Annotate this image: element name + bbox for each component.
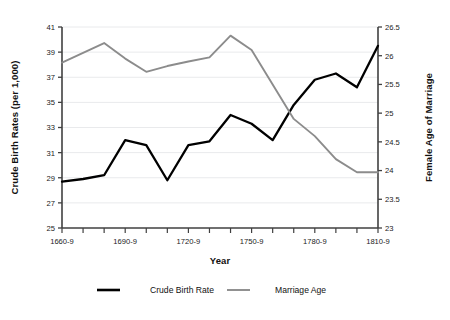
y-axis-right-tick-label: 23 (385, 224, 393, 233)
y-axis-right-tick-label: 25.5 (385, 80, 400, 89)
y-axis-right-tick-label: 24 (385, 166, 393, 175)
y-axis-right-tick-label: 23.5 (385, 195, 400, 204)
y-axis-left-tick-label: 31 (47, 149, 55, 158)
y-axis-left-tick-label: 35 (47, 98, 55, 107)
y-axis-left-tick-label: 33 (47, 123, 55, 132)
series-line-1 (62, 46, 378, 182)
y-axis-right-tick-label: 26.5 (385, 23, 400, 32)
x-axis-tick-label: 1660-9 (50, 237, 74, 246)
legend-label-2: Marriage Age (275, 285, 326, 295)
chart-figure: 2527293133353739412323.52424.52525.52626… (0, 0, 450, 320)
x-axis-tick-label: 1750-9 (240, 237, 264, 246)
y-axis-right-tick-label: 25 (385, 109, 393, 118)
series-line-2 (62, 36, 378, 173)
y-axis-left-tick-label: 27 (47, 199, 55, 208)
y-axis-left-tick-label: 25 (47, 224, 55, 233)
legend-label-1: Crude Birth Rate (150, 285, 214, 295)
y-axis-left-tick-label: 37 (47, 73, 55, 82)
dual-axis-line-chart: 2527293133353739412323.52424.52525.52626… (0, 0, 450, 320)
y-axis-left-title: Crude Birth Rates (per 1,000) (9, 61, 20, 195)
y-axis-left-tick-label: 39 (47, 48, 55, 57)
y-axis-right-tick-label: 24.5 (385, 138, 400, 147)
x-axis-tick-label: 1720-9 (177, 237, 201, 246)
x-axis-tick-label: 1780-9 (303, 237, 327, 246)
x-axis-tick-label: 1690-9 (113, 237, 137, 246)
y-axis-left-tick-label: 41 (47, 23, 55, 32)
y-axis-left-tick-label: 29 (47, 174, 55, 183)
y-axis-right-tick-label: 26 (385, 52, 393, 61)
x-axis-title: Year (210, 255, 231, 266)
y-axis-right-title: Female Age of Marriage (423, 73, 434, 182)
x-axis-tick-label: 1810-9 (366, 237, 390, 246)
